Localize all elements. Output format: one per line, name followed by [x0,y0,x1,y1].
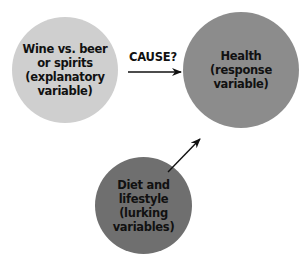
lurking-arrow-icon [168,139,200,172]
